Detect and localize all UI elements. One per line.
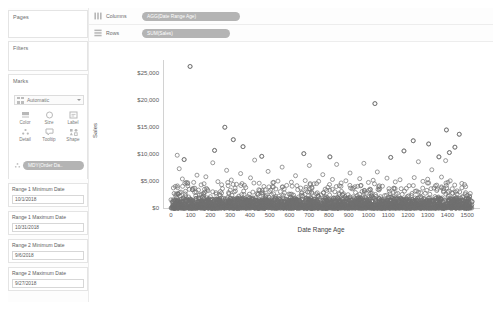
x-axis-ticks: 0100200300400500600700800900100011001200… xyxy=(163,212,479,224)
detail-icon xyxy=(21,128,30,136)
color-icon xyxy=(21,111,30,119)
x-axis-title: Date Range Age xyxy=(163,226,479,233)
plot-area[interactable] xyxy=(163,60,480,209)
marks-card-title: Marks xyxy=(9,75,87,85)
parameter-input[interactable]: 10/1/2018 xyxy=(12,195,84,204)
parameter-range2-max[interactable]: Range 2 Maximum Date 9/27/2018 xyxy=(8,267,88,291)
x-axis-tick-label: 300 xyxy=(225,212,235,218)
x-axis-tick-label: 900 xyxy=(344,212,354,218)
y-axis-tick-label: $20,000 xyxy=(137,97,159,103)
pill-date-range-age[interactable]: AGG(Date Range Age) xyxy=(142,12,240,21)
marks-button-color-label: Color xyxy=(20,120,31,125)
marks-type-dropdown[interactable]: Automatic xyxy=(14,95,84,105)
y-axis-tick-label: $25,000 xyxy=(137,70,159,76)
chevron-down-icon xyxy=(77,99,81,101)
x-axis-tick-label: 1000 xyxy=(362,212,375,218)
y-axis-tick-label: $10,000 xyxy=(137,151,159,157)
y-axis-tick-label: $0 xyxy=(152,205,159,211)
rows-shelf[interactable]: Rows SUM(Sales) xyxy=(89,25,493,42)
x-axis-tick-label: 100 xyxy=(186,212,196,218)
x-axis-tick-label: 400 xyxy=(245,212,255,218)
marks-button-label-label: Label xyxy=(67,120,78,125)
pill-sum-sales[interactable]: SUM(Sales) xyxy=(142,29,230,38)
marks-button-color[interactable]: Color xyxy=(13,109,37,126)
marks-type-icon xyxy=(17,97,24,104)
marks-button-tooltip-label: Tooltip xyxy=(42,137,55,142)
x-axis-tick-label: 500 xyxy=(265,212,275,218)
shape-icon xyxy=(69,128,78,136)
label-icon xyxy=(69,111,78,119)
x-axis-tick-label: 700 xyxy=(304,212,314,218)
columns-shelf-label: Columns xyxy=(106,13,136,19)
parameter-title: Range 2 Minimum Date xyxy=(12,242,84,249)
columns-icon xyxy=(94,12,102,20)
marks-button-size[interactable]: Size xyxy=(37,109,61,126)
pages-card[interactable]: Pages xyxy=(8,10,88,38)
rows-icon xyxy=(94,29,102,37)
x-axis-tick-label: 1500 xyxy=(460,212,473,218)
scatter-points xyxy=(164,60,480,208)
y-axis-ticks: $0$5,000$10,000$15,000$20,000$25,000 xyxy=(89,42,159,226)
marks-button-shape-label: Shape xyxy=(66,137,79,142)
parameter-range1-min[interactable]: Range 1 Minimum Date 10/1/2018 xyxy=(8,183,88,207)
chart-canvas[interactable]: Sales $0$5,000$10,000$15,000$20,000$25,0… xyxy=(88,42,493,302)
marks-button-tooltip[interactable]: Tooltip xyxy=(37,126,61,143)
marks-pill-row: MDY(Order Da.. xyxy=(14,161,84,170)
x-axis-tick-label: 200 xyxy=(205,212,215,218)
marks-button-detail[interactable]: Detail xyxy=(13,126,37,143)
marks-card[interactable]: Marks Automatic Color Size xyxy=(8,74,88,179)
columns-shelf[interactable]: Columns AGG(Date Range Age) xyxy=(89,8,493,25)
x-axis-tick-label: 600 xyxy=(284,212,294,218)
filters-card[interactable]: Filters xyxy=(8,41,88,71)
x-axis-tick-label: 1300 xyxy=(421,212,434,218)
parameter-title: Range 2 Maximum Date xyxy=(12,270,84,277)
size-icon xyxy=(45,111,54,119)
parameter-input[interactable]: 9/6/2018 xyxy=(12,251,84,260)
parameter-title: Range 1 Minimum Date xyxy=(12,186,84,193)
y-axis-tick-label: $15,000 xyxy=(137,124,159,130)
x-axis-tick-label: 1100 xyxy=(382,212,395,218)
marks-button-label[interactable]: Label xyxy=(61,109,85,126)
worksheet-sidebar: Pages Filters Marks Automatic Color xyxy=(8,8,88,302)
marks-button-size-label: Size xyxy=(45,120,54,125)
marks-pill-order-date[interactable]: MDY(Order Da.. xyxy=(23,161,84,170)
rows-shelf-label: Rows xyxy=(106,30,136,36)
detail-icon xyxy=(14,162,21,169)
y-axis-tick-label: $5,000 xyxy=(141,178,159,184)
tooltip-icon xyxy=(45,128,54,136)
pages-card-title: Pages xyxy=(9,11,87,21)
x-axis-tick-label: 1200 xyxy=(401,212,414,218)
parameter-input[interactable]: 10/31/2018 xyxy=(12,223,84,232)
parameter-range1-max[interactable]: Range 1 Maximum Date 10/31/2018 xyxy=(8,211,88,235)
x-axis-tick-label: 1400 xyxy=(441,212,454,218)
filters-card-title: Filters xyxy=(9,42,87,52)
parameter-range2-min[interactable]: Range 2 Minimum Date 9/6/2018 xyxy=(8,239,88,263)
x-axis-tick-label: 800 xyxy=(324,212,334,218)
marks-type-label: Automatic xyxy=(27,97,77,103)
marks-button-detail-label: Detail xyxy=(19,137,31,142)
parameter-title: Range 1 Maximum Date xyxy=(12,214,84,221)
x-axis-tick-label: 0 xyxy=(169,212,172,218)
tableau-worksheet: Pages Filters Marks Automatic Color xyxy=(8,8,492,302)
marks-button-shape[interactable]: Shape xyxy=(61,126,85,143)
parameter-input[interactable]: 9/27/2018 xyxy=(12,279,84,288)
marks-buttons: Color Size Label xyxy=(13,109,85,143)
shelves-area: Columns AGG(Date Range Age) Rows SUM(Sal… xyxy=(88,8,493,42)
